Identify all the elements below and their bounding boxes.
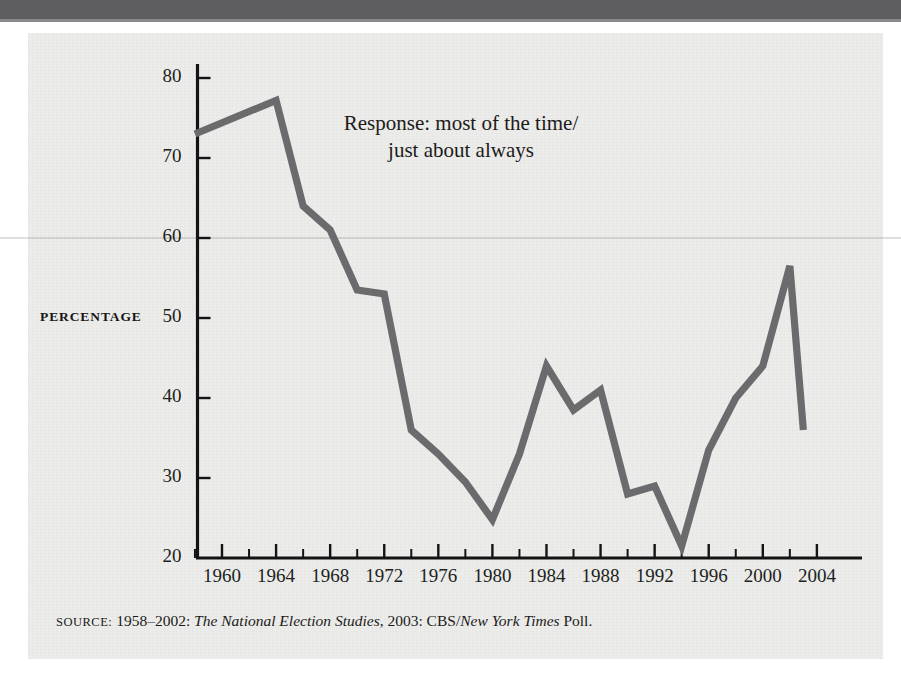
- x-axis-tick-label: 2004: [782, 565, 852, 587]
- y-axis-tick-label: 40: [136, 385, 182, 407]
- annotation-line-1: Response: most of the time/: [344, 111, 578, 135]
- source-note: SOURCE: 1958–2002: The National Election…: [56, 612, 592, 630]
- y-axis-tick-label: 70: [136, 145, 182, 167]
- y-axis-tick-label: 50: [136, 305, 182, 327]
- source-label: SOURCE:: [56, 615, 112, 629]
- y-axis-tick-label: 80: [136, 65, 182, 87]
- source-suffix: Poll.: [560, 612, 593, 629]
- y-axis-tick-label: 30: [136, 465, 182, 487]
- series-annotation: Response: most of the time/ just about a…: [296, 110, 626, 164]
- source-middle: , 2003: CBS/: [380, 612, 461, 629]
- y-axis-tick-label: 20: [136, 545, 182, 567]
- source-newspaper-title: New York Times: [460, 612, 559, 629]
- y-axis-tick-label: 60: [136, 225, 182, 247]
- source-study-title: The National Election Studies: [194, 612, 380, 629]
- source-years: 1958–2002:: [112, 612, 194, 629]
- annotation-line-2: just about always: [296, 137, 626, 164]
- y-axis-title: PERCENTAGE: [40, 309, 142, 325]
